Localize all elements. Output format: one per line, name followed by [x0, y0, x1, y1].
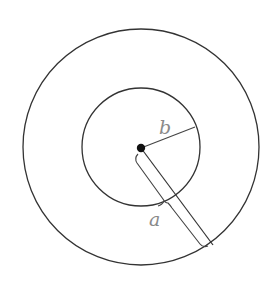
diagram-canvas: b a	[0, 0, 272, 282]
brace-a	[136, 154, 208, 247]
radius-a-line	[141, 148, 213, 245]
label-a: a	[149, 208, 160, 230]
concentric-circles-diagram: b a	[0, 0, 272, 282]
label-b: b	[159, 116, 171, 138]
center-point	[137, 144, 145, 152]
